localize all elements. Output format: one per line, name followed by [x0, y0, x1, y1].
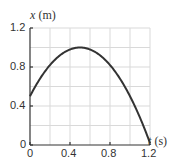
- y-tick-label: 0.4: [10, 99, 25, 111]
- y-tick-label: 0.8: [10, 60, 25, 72]
- x-tick-label: 0: [27, 147, 33, 159]
- x-tick-label: 1.2: [141, 147, 156, 159]
- x-tick-label: 0.8: [101, 147, 116, 159]
- grid-lines: [30, 28, 150, 145]
- y-axis-label: x (m): [30, 8, 56, 23]
- y-tick-label: 0: [20, 138, 26, 150]
- y-tick-label: 1.2: [10, 21, 25, 33]
- x-tick-label: 0.4: [61, 147, 76, 159]
